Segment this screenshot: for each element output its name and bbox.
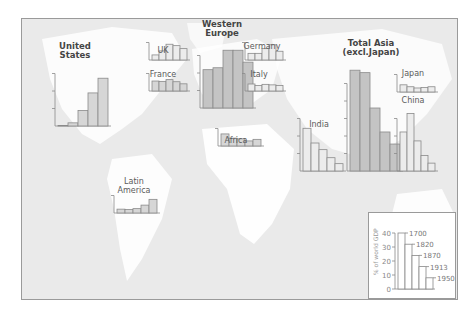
bar-1820: [68, 123, 78, 126]
region-label-latin-america: Latin America: [104, 177, 164, 195]
bar-1820: [125, 210, 133, 214]
bar-1870: [370, 108, 380, 171]
legend-ytick-label: 40: [382, 230, 391, 238]
region-label-japan: Japan: [383, 69, 443, 78]
legend-bar: [426, 278, 433, 289]
bar-1950: [149, 199, 157, 213]
bar-1870: [223, 50, 233, 108]
bar-1820: [255, 53, 262, 60]
bar-1913: [380, 132, 390, 171]
bar-1913: [88, 93, 98, 126]
bar-1950: [276, 51, 283, 60]
mini-chart-total-asia: [344, 70, 403, 171]
bar-1950: [98, 78, 108, 126]
bar-1820: [213, 68, 223, 108]
bar-1700: [58, 126, 68, 127]
mini-chart-latin-america: [111, 196, 160, 214]
bar-1913: [421, 155, 428, 171]
legend-bar: [412, 255, 419, 289]
legend-bar-label: 1870: [423, 252, 441, 260]
region-label-africa: Africa: [206, 136, 266, 145]
legend-ytick-label: 0: [387, 286, 391, 294]
bar-1870: [319, 150, 327, 171]
bar-1820: [159, 81, 166, 91]
bar-1870: [166, 80, 173, 91]
legend-example-chart: 010203040% of world GDP17001820187019131…: [369, 213, 455, 298]
bar-1700: [117, 209, 125, 213]
bar-1820: [407, 87, 414, 92]
region-label-us: United States: [45, 42, 105, 60]
bar-1700: [152, 55, 159, 60]
bar-1700: [248, 84, 255, 91]
bar-1820: [255, 85, 262, 91]
mini-chart-western-europe: [197, 50, 256, 108]
bar-1700: [248, 53, 255, 60]
bar-1700: [303, 128, 311, 171]
mini-chart-china: [394, 113, 438, 171]
mini-chart-us: [52, 74, 111, 127]
bar-1950: [180, 84, 187, 91]
bar-1870: [414, 88, 421, 92]
bar-1700: [152, 81, 159, 91]
bar-1700: [400, 132, 407, 171]
region-label-france: France: [133, 70, 193, 79]
bar-1870: [262, 84, 269, 91]
bar-1870: [414, 141, 421, 171]
bar-1950: [335, 164, 343, 171]
bar-1870: [133, 209, 141, 213]
legend-ytick-label: 20: [382, 258, 391, 266]
legend-ytick-label: 10: [382, 272, 391, 280]
bar-1820: [360, 73, 370, 171]
legend-bar-label: 1913: [430, 264, 448, 272]
region-label-china: China: [383, 96, 443, 105]
region-label-italy: Italy: [229, 70, 289, 79]
bar-1950: [390, 144, 400, 171]
legend-bar-label: 1950: [437, 275, 455, 283]
legend-bar: [419, 267, 426, 289]
bar-1913: [421, 87, 428, 92]
bar-1913: [173, 82, 180, 91]
legend-bar-label: 1700: [409, 230, 427, 238]
legend-bar-label: 1820: [416, 241, 434, 249]
bar-1913: [233, 50, 243, 108]
bar-1870: [78, 110, 88, 126]
legend-bar: [405, 244, 412, 289]
region-label-western-europe: Western Europe: [192, 20, 252, 38]
bar-1700: [203, 70, 213, 108]
bar-1913: [327, 158, 335, 171]
bar-1820: [311, 143, 319, 171]
legend-ylabel: % of world GDP: [372, 228, 379, 275]
region-label-uk: UK: [133, 46, 193, 55]
bar-1700: [350, 70, 360, 171]
bar-1913: [141, 205, 149, 213]
bar-1700: [400, 85, 407, 92]
bar-1950: [428, 87, 435, 92]
bar-1820: [407, 113, 414, 171]
region-label-india: India: [289, 120, 349, 129]
bar-1950: [428, 163, 435, 171]
legend-box: 010203040% of world GDP17001820187019131…: [368, 212, 456, 299]
region-label-total-asia: Total Asia (excl.Japan): [341, 39, 401, 57]
bar-1913: [269, 85, 276, 91]
region-label-germany: Germany: [232, 42, 292, 51]
legend-ytick-label: 30: [382, 244, 391, 252]
bar-1950: [276, 86, 283, 91]
legend-bar: [398, 233, 405, 289]
